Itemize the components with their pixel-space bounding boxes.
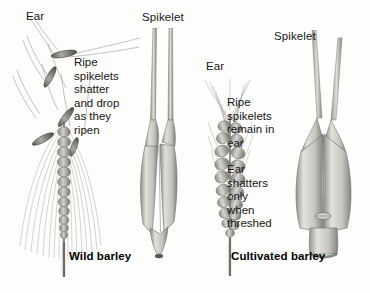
- annotation-line: and drop: [74, 97, 119, 111]
- cultivated-barley-annotation-1: Ripe spikelets remain in ear: [227, 96, 274, 150]
- cultivated-spikelet-label: Spikelet: [274, 31, 316, 43]
- wild-ear-grains: [57, 127, 70, 239]
- cultivated-barley-caption: Cultivated barley: [231, 250, 325, 262]
- wild-spikelet-label: Spikelet: [142, 12, 184, 24]
- annotation-line: Ripe: [227, 96, 274, 110]
- annotation-line: threshed: [227, 217, 272, 231]
- wild-barley-ear-illustration: [0, 14, 140, 279]
- annotation-line: Ear: [227, 163, 272, 177]
- wild-barley-caption: Wild barley: [69, 250, 131, 262]
- annotation-line: when: [227, 204, 272, 218]
- annotation-line: Ripe: [74, 56, 119, 70]
- annotation-line: shatters: [227, 177, 272, 191]
- annotation-line: only: [227, 190, 272, 204]
- cultivated-barley-spikelet-detail: [288, 30, 360, 260]
- annotation-line: shatter: [74, 83, 119, 97]
- cultivated-ear-label: Ear: [206, 61, 224, 73]
- annotation-line: ear: [227, 137, 274, 151]
- wild-ear-label: Ear: [26, 11, 44, 23]
- wild-barley-spikelet-detail: [128, 28, 196, 260]
- annotation-line: spikelets: [74, 70, 119, 84]
- annotation-line: as they: [74, 110, 119, 124]
- annotation-line: spikelets: [227, 110, 274, 124]
- rachilla-scar: [315, 213, 331, 220]
- annotation-line: ripen: [74, 124, 119, 138]
- barley-comparison-figure: Ear Spikelet Ripe spikelets shatter and …: [0, 0, 370, 293]
- cultivated-barley-annotation-2: Ear shatters only when threshed: [227, 163, 272, 231]
- wild-barley-annotation: Ripe spikelets shatter and drop as they …: [74, 56, 119, 138]
- annotation-line: remain in: [227, 123, 274, 137]
